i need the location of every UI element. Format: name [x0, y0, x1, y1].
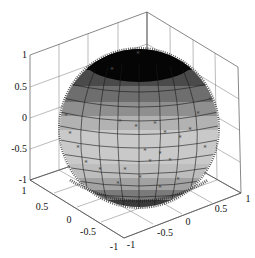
- svg-text:1: 1: [246, 193, 251, 204]
- svg-text:0.5: 0.5: [215, 203, 228, 214]
- svg-text:*: *: [116, 180, 120, 188]
- svg-text:*: *: [188, 126, 192, 134]
- svg-text:0.5: 0.5: [36, 201, 49, 212]
- svg-text:1: 1: [22, 49, 27, 60]
- svg-text:0: 0: [67, 214, 72, 225]
- svg-text:*: *: [153, 120, 157, 128]
- svg-text:*: *: [143, 147, 147, 155]
- svg-text:*: *: [168, 157, 172, 165]
- sphere-surface: [55, 38, 225, 212]
- svg-text:*: *: [208, 96, 212, 104]
- svg-text:*: *: [138, 174, 142, 182]
- svg-text:*: *: [110, 66, 114, 74]
- svg-text:*: *: [148, 158, 152, 166]
- svg-text:*: *: [136, 50, 140, 58]
- svg-text:*: *: [76, 144, 80, 152]
- svg-text:0: 0: [22, 112, 27, 123]
- svg-text:*: *: [178, 134, 182, 142]
- svg-text:-0.5: -0.5: [11, 143, 27, 154]
- svg-text:-1: -1: [110, 241, 118, 252]
- svg-text:0: 0: [186, 216, 191, 227]
- svg-text:*: *: [98, 166, 102, 174]
- svg-text:*: *: [118, 118, 122, 126]
- svg-text:*: *: [196, 110, 200, 118]
- svg-text:-1: -1: [127, 239, 135, 250]
- svg-text:*: *: [64, 112, 68, 120]
- svg-text:-0.5: -0.5: [80, 226, 96, 237]
- svg-text:*: *: [176, 176, 180, 184]
- svg-text:-0.5: -0.5: [157, 227, 173, 238]
- svg-text:*: *: [158, 184, 162, 192]
- z-axis-ticks: 1 0.5 0 -0.5 -1: [11, 49, 27, 185]
- svg-text:*: *: [158, 150, 162, 158]
- sphere-3d-plot: * * * * * * * * * * * * * * * * * * * * …: [0, 0, 255, 258]
- svg-text:*: *: [134, 123, 138, 131]
- svg-text:1: 1: [22, 185, 27, 196]
- svg-text:-1: -1: [19, 174, 27, 185]
- svg-text:*: *: [84, 159, 88, 167]
- svg-text:*: *: [163, 129, 167, 137]
- svg-text:*: *: [123, 166, 127, 174]
- svg-text:*: *: [68, 130, 72, 138]
- svg-text:*: *: [203, 144, 207, 152]
- svg-text:0.5: 0.5: [15, 81, 28, 92]
